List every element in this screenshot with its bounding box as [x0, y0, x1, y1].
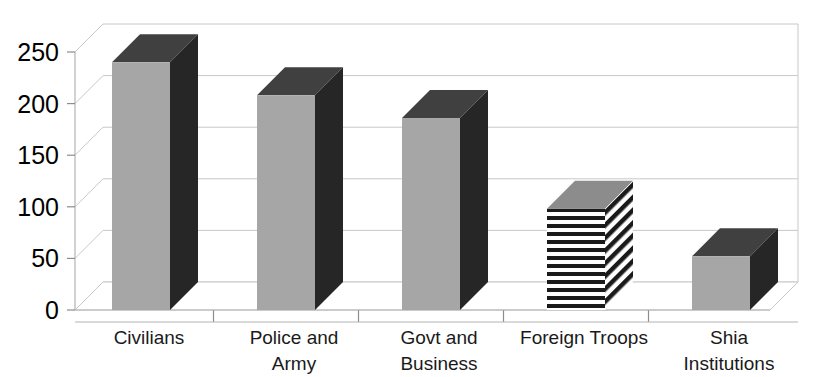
bar-side-face — [460, 90, 488, 310]
x-axis-category-label: Business — [400, 353, 477, 374]
x-axis-category-label: Foreign Troops — [520, 327, 648, 348]
bar-column — [547, 181, 633, 310]
x-axis-category-label: Shia — [710, 327, 748, 348]
x-axis-category-label: Govt and — [400, 327, 477, 348]
y-axis-tick-label: 0 — [45, 296, 59, 324]
bar-column — [257, 67, 343, 310]
bar-front-face — [112, 62, 170, 310]
bar-front-face — [547, 209, 605, 310]
bar-column — [112, 34, 198, 310]
bar-column — [402, 90, 488, 310]
bar-front-face — [692, 256, 750, 310]
bar-front-face — [257, 95, 315, 310]
x-axis-category-label: Police and — [250, 327, 339, 348]
y-axis-tick-label: 250 — [17, 38, 59, 66]
bar-side-face — [170, 34, 198, 310]
y-axis-tick-label: 150 — [17, 141, 59, 169]
x-axis-category-label: Army — [272, 353, 317, 374]
chart-container: 050100150200250 CiviliansPolice andArmyG… — [0, 0, 830, 377]
x-axis-category-label: Civilians — [114, 327, 185, 348]
bar-side-face — [315, 67, 343, 310]
bar-front-face — [402, 118, 460, 310]
y-axis-tick-label: 100 — [17, 193, 59, 221]
y-axis-tick-label: 200 — [17, 90, 59, 118]
y-axis-tick-label: 50 — [31, 244, 59, 272]
bar-chart: 050100150200250 CiviliansPolice andArmyG… — [0, 0, 830, 377]
x-axis-category-label: Institutions — [684, 353, 775, 374]
